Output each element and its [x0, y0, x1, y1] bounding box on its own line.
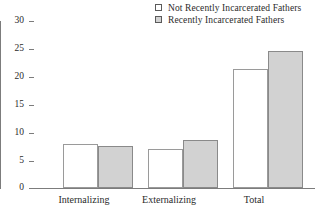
empty-square-icon [155, 4, 162, 11]
y-axis-tick-label: 30 [0, 16, 24, 26]
y-axis-tick-label: 20 [0, 72, 24, 82]
bar-chart: Not Recently Incarcerated Fathers Recent… [0, 0, 322, 219]
legend-item-label: Not Recently Incarcerated Fathers [168, 3, 301, 13]
x-axis-label-internalizing: Internalizing [38, 194, 130, 205]
bar-externalizing-recently-incarcerated[interactable] [183, 140, 218, 188]
bar-total-recently-incarcerated[interactable] [268, 51, 303, 188]
y-axis-tick [29, 188, 34, 189]
y-axis-tick-label: 5 [0, 156, 24, 166]
bar-total-not-recently-incarcerated[interactable] [233, 69, 268, 188]
y-axis-tick-label: 10 [0, 128, 24, 138]
y-axis-tick-label: 25 [0, 44, 24, 54]
plot-area [34, 21, 314, 188]
bar-externalizing-not-recently-incarcerated[interactable] [148, 149, 183, 188]
x-axis-label-externalizing: Externalizing [123, 194, 215, 205]
bar-internalizing-not-recently-incarcerated[interactable] [63, 144, 98, 188]
y-axis-tick-label: 15 [0, 100, 24, 110]
x-axis-label-total: Total [208, 194, 300, 205]
bar-internalizing-recently-incarcerated[interactable] [98, 146, 133, 188]
y-axis-tick-label: 0 [0, 183, 24, 193]
x-axis-line [34, 188, 315, 189]
legend-item-not-recently-incarcerated-fathers[interactable]: Not Recently Incarcerated Fathers [155, 2, 320, 13]
